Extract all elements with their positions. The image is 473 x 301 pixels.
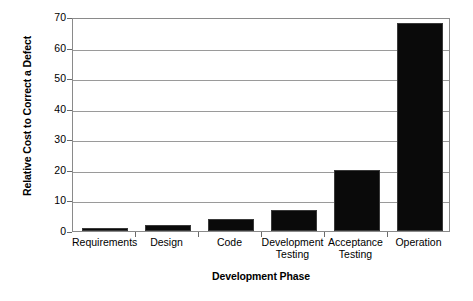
x-axis-tick-label-line: Acceptance (324, 236, 387, 248)
bar-chart: Relative Cost to Correct a Defect 010203… (0, 0, 473, 301)
y-axis-title: Relative Cost to Correct a Defect (18, 0, 36, 232)
y-axis-tick-label: 50 (42, 73, 66, 84)
y-axis-tick-label: 10 (42, 195, 66, 206)
bar (145, 225, 191, 231)
x-axis-tick-labels: RequirementsDesignCodeDevelopmentTesting… (72, 236, 450, 270)
bar (82, 228, 128, 231)
x-axis-tick-label-line: Operation (387, 236, 450, 248)
x-axis-tick-label: Code (198, 236, 261, 248)
x-axis-tick-label: Operation (387, 236, 450, 248)
x-axis-tick-label-line: Testing (261, 248, 324, 260)
bar (271, 210, 317, 231)
y-axis-tick-labels: 010203040506070 (38, 0, 66, 301)
x-axis-tick-label-line: Code (198, 236, 261, 248)
x-axis-tick-label-line: Requirements (72, 236, 135, 248)
y-axis-tick-label: 0 (42, 226, 66, 237)
x-axis-tick-label: DevelopmentTesting (261, 236, 324, 260)
y-axis-tick-label: 20 (42, 165, 66, 176)
bars-layer (73, 19, 449, 231)
x-axis-tick-label-line: Testing (324, 248, 387, 260)
y-axis-tick-label: 40 (42, 104, 66, 115)
bar (334, 170, 380, 231)
y-axis-tick-label: 60 (42, 43, 66, 54)
x-axis-tick-label: Requirements (72, 236, 135, 248)
x-axis-title: Development Phase (72, 270, 450, 282)
y-axis-tick-label: 70 (42, 12, 66, 23)
x-axis-tick-label: AcceptanceTesting (324, 236, 387, 260)
bar (208, 219, 254, 231)
y-axis-tick-label: 30 (42, 134, 66, 145)
x-axis-tick-label-line: Development (261, 236, 324, 248)
x-axis-tick-label-line: Design (135, 236, 198, 248)
bar (397, 23, 443, 231)
x-axis-tick-label: Design (135, 236, 198, 248)
plot-area (72, 18, 450, 232)
